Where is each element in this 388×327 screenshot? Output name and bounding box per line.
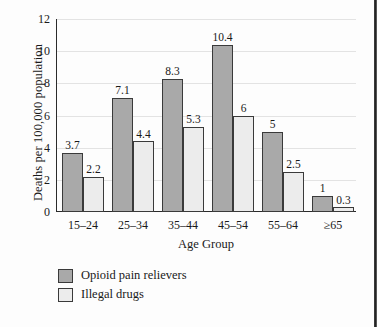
legend-label-illegal: Illegal drugs — [81, 287, 144, 302]
bar-group: 7.14.4 — [112, 19, 154, 212]
bar: 8.3 — [162, 79, 183, 212]
bar-value-label: 6 — [241, 103, 247, 115]
bar-series-container: 3.72.27.14.48.35.310.4652.510.3 — [56, 19, 356, 212]
bar-group: 52.5 — [262, 19, 304, 212]
bar-value-label: 1 — [320, 183, 326, 195]
bar: 1 — [312, 196, 333, 212]
bar-value-label: 0.3 — [336, 195, 350, 207]
bar: 5 — [262, 132, 283, 212]
bar: 2.2 — [83, 177, 104, 212]
x-axis-title: Age Group — [56, 237, 356, 252]
legend-label-opioid: Opioid pain relievers — [81, 268, 187, 283]
x-tick-label: 35–44 — [162, 218, 204, 233]
x-tick-label: 45–54 — [212, 218, 254, 233]
bar-group: 3.72.2 — [62, 19, 104, 212]
bar-value-label: 5.3 — [186, 114, 200, 126]
bar: 7.1 — [112, 98, 133, 212]
y-tick-label: 2 — [44, 172, 50, 187]
x-tick-label: 15–24 — [62, 218, 104, 233]
bar: 2.5 — [283, 172, 304, 212]
y-tick-label: 0 — [44, 205, 50, 220]
page-margin — [377, 0, 388, 327]
bar: 4.4 — [133, 141, 154, 212]
bar-group: 8.35.3 — [162, 19, 204, 212]
legend-swatch-icon-opioid — [58, 269, 73, 283]
y-tick-label: 4 — [44, 140, 50, 155]
bar-value-label: 8.3 — [165, 66, 179, 78]
y-tick-label: 6 — [44, 108, 50, 123]
bar: 0.3 — [333, 207, 354, 212]
bar: 10.4 — [212, 45, 233, 212]
page-edge-rule — [374, 0, 377, 327]
bar-value-label: 2.5 — [286, 159, 300, 171]
legend-item-opioid-pain-relievers: Opioid pain relievers — [58, 268, 187, 283]
bar-group: 10.3 — [312, 19, 354, 212]
chart-legend: Opioid pain relievers Illegal drugs — [58, 268, 187, 306]
bar-value-label: 4.4 — [136, 129, 150, 141]
bar-value-label: 5 — [270, 119, 276, 131]
y-tick-label: 8 — [44, 76, 50, 91]
bar: 5.3 — [183, 127, 204, 212]
bar-value-label: 2.2 — [86, 164, 100, 176]
chart-figure: Deaths per 100,000 population 024681012 … — [0, 0, 388, 327]
bar-group: 10.46 — [212, 19, 254, 212]
bar: 3.7 — [62, 153, 83, 213]
x-tick-label: 25–34 — [112, 218, 154, 233]
legend-item-illegal-drugs: Illegal drugs — [58, 287, 187, 302]
y-tick-label: 12 — [38, 12, 50, 27]
x-tick-label: ≥65 — [312, 218, 354, 233]
x-tick-label: 55–64 — [262, 218, 304, 233]
bar-value-label: 3.7 — [65, 140, 79, 152]
bar-value-label: 10.4 — [212, 32, 232, 44]
plot-area: 024681012 3.72.27.14.48.35.310.4652.510.… — [56, 19, 356, 212]
y-tick-label: 10 — [38, 44, 50, 59]
legend-swatch-icon-illegal — [58, 288, 73, 302]
bar-value-label: 7.1 — [115, 85, 129, 97]
bar: 6 — [233, 116, 254, 213]
